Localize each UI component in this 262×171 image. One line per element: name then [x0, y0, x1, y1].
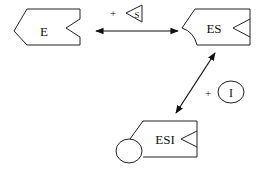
enzyme-substrate-inhibitor-node-esi: ESI — [116, 121, 197, 163]
reversible-arrow-es-esi — [176, 53, 215, 113]
bound-inhibitor-circle-icon — [116, 139, 142, 163]
plus-sign: + — [205, 87, 211, 99]
enzyme-substrate-node-es: ES — [182, 9, 250, 45]
bound-substrate-wedge-icon — [233, 19, 250, 37]
plus-sign: + — [110, 7, 116, 19]
es-label: ES — [206, 21, 221, 36]
enzyme-inhibition-diagram: E + S ES + I ESI — [0, 0, 262, 171]
bound-substrate-wedge-icon — [181, 131, 197, 147]
inhibitor-reactant: + I — [205, 81, 244, 103]
enzyme-node-e: E — [14, 9, 80, 45]
substrate-reactant: + S — [110, 5, 142, 22]
inhibitor-label: I — [229, 86, 233, 100]
substrate-label: S — [134, 10, 139, 20]
enzyme-label: E — [40, 24, 48, 39]
esi-label: ESI — [155, 132, 175, 147]
